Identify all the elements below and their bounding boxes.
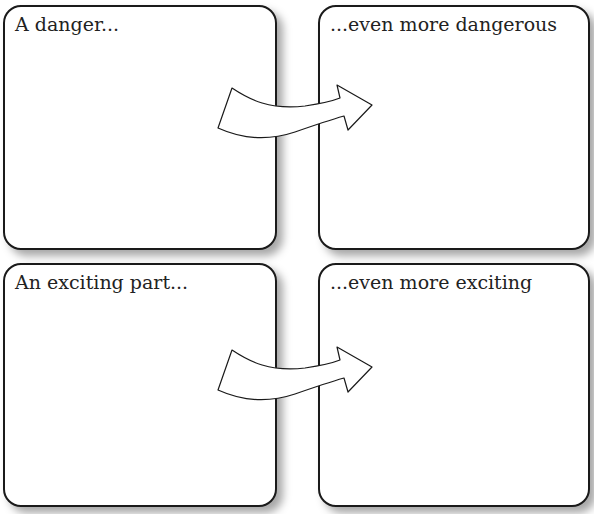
box-label-danger: A danger... (15, 13, 119, 35)
curved-arrow-right-icon (210, 70, 375, 150)
box-label-more-exciting: ...even more exciting (330, 271, 532, 293)
curved-arrow-right-icon (210, 332, 375, 412)
box-label-exciting-part: An exciting part... (15, 271, 188, 293)
box-label-more-dangerous: ...even more dangerous (330, 13, 557, 35)
